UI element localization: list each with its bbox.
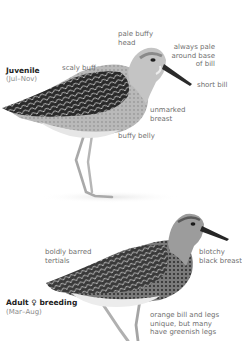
- label-pale-buffy-head: pale buffy head: [118, 30, 153, 47]
- label-orange-bill-legs: orange bill and legs unique, but many ha…: [150, 311, 219, 337]
- label-unmarked-breast: unmarked breast: [150, 106, 185, 123]
- adult-female-season: (Mar–Aug): [6, 308, 42, 317]
- label-buffy-belly: buffy belly: [118, 132, 155, 141]
- label-blotchy-black-breast: blotchy black breast: [199, 248, 242, 265]
- label-short-bill: short bill: [197, 81, 228, 90]
- juvenile-season: (Jul–Nov): [6, 75, 37, 84]
- juvenile-title: Juvenile: [6, 66, 40, 75]
- adult-female-title: Adult ♀ breeding: [6, 298, 77, 307]
- label-scaly-buff: scaly buff: [62, 64, 96, 73]
- label-boldly-barred-tertials: boldly barred tertials: [45, 248, 91, 265]
- label-pale-around-bill: always pale around base of bill: [171, 43, 215, 69]
